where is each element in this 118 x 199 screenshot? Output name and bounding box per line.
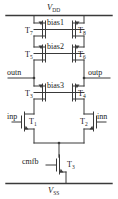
vss-rail-label: VSS — [48, 186, 59, 195]
t2-source-arrow — [90, 126, 94, 130]
t8-label: T8 — [78, 27, 86, 35]
bias1-label: bias1 — [47, 19, 64, 27]
t5-label: T5 — [25, 51, 33, 59]
t3-source-arrow — [60, 169, 64, 173]
t7-label: T7 — [25, 27, 33, 35]
t4-label: T4 — [78, 90, 86, 98]
bias3-label: bias3 — [47, 82, 64, 90]
t1-source-arrow — [25, 126, 29, 130]
t3-label: T3 — [67, 161, 75, 169]
inn-label: inn — [97, 113, 107, 121]
t6-label: T6 — [78, 51, 86, 59]
vdd-rail-label: VDD — [47, 3, 60, 12]
circuit-schematic: VDD VSS bias1 bias2 bias3 T7 T8 T5 T6 ou… — [0, 0, 118, 199]
outp-label: outp — [88, 69, 102, 77]
t2-label: T2 — [80, 118, 88, 126]
bias2-label: bias2 — [47, 43, 64, 51]
inp-label: inp — [7, 113, 17, 121]
tail-node-dot — [58, 142, 61, 145]
t3c-label: T3 — [25, 90, 33, 98]
cmfb-label: cmfb — [22, 158, 38, 166]
outn-label: outn — [7, 69, 21, 77]
schematic-wiring — [0, 0, 118, 199]
t1-label: T1 — [29, 118, 37, 126]
